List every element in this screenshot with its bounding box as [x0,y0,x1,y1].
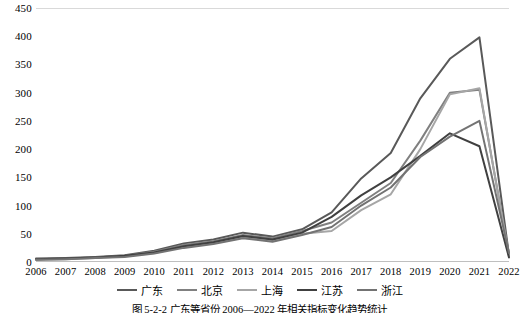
y-axis-tick-300: 300 [15,88,32,98]
x-axis-tick-2015: 2015 [291,266,312,277]
series-line-广东 [36,37,509,258]
legend-item-3[interactable]: 江苏 [297,282,343,298]
x-axis-tick-2012: 2012 [203,266,224,277]
legend-swatch-line-icon [357,289,377,291]
x-axis-tick-2020: 2020 [439,266,460,277]
legend-label: 江苏 [321,282,343,298]
legend-item-1[interactable]: 北京 [177,282,223,298]
y-axis-tick-450: 450 [15,3,32,13]
x-axis-tick-2018: 2018 [380,266,401,277]
x-axis-tick-2007: 2007 [55,266,76,277]
series-line-江苏 [36,133,509,259]
x-axis-tick-2008: 2008 [84,266,105,277]
x-axis-tick-2006: 2006 [25,266,46,277]
legend-label: 上海 [261,282,283,298]
x-axis-tick-2017: 2017 [350,266,371,277]
y-axis-tick-400: 400 [15,31,32,41]
figure-caption: 图 5-2-2 广东等省份 2006—2022 年相关指标变化趋势统计 [0,301,519,313]
chart-legend: 广东北京上海江苏浙江 [0,282,519,298]
legend-swatch-line-icon [117,289,137,291]
x-axis-tick-2021: 2021 [469,266,490,277]
y-axis-labels: 050100150200250300350400450 [0,0,32,262]
series-lines [36,8,509,262]
series-line-上海 [36,88,509,260]
x-axis-labels: 2006200720082009201020112012201320142015… [36,266,509,282]
y-axis-tick-250: 250 [15,116,32,126]
x-axis-tick-2022: 2022 [498,266,519,277]
legend-label: 北京 [201,282,223,298]
x-axis-tick-2011: 2011 [173,266,194,277]
y-axis-tick-350: 350 [15,59,32,69]
y-axis-tick-150: 150 [15,172,32,182]
x-axis-tick-2016: 2016 [321,266,342,277]
legend-item-4[interactable]: 浙江 [357,282,403,298]
y-axis-tick-200: 200 [15,144,32,154]
legend-label: 浙江 [381,282,403,298]
legend-swatch-line-icon [177,289,197,291]
plot-area [36,8,509,262]
y-axis-tick-50: 50 [21,229,32,239]
x-axis-tick-2019: 2019 [410,266,431,277]
x-axis-line [36,261,509,262]
x-axis-tick-2013: 2013 [232,266,253,277]
x-axis-tick-2009: 2009 [114,266,135,277]
legend-swatch-line-icon [237,289,257,291]
legend-item-2[interactable]: 上海 [237,282,283,298]
legend-item-0[interactable]: 广东 [117,282,163,298]
y-axis-tick-100: 100 [15,201,32,211]
legend-swatch-line-icon [297,289,317,291]
legend-label: 广东 [141,282,163,298]
x-axis-tick-2010: 2010 [144,266,165,277]
x-axis-tick-2014: 2014 [262,266,283,277]
